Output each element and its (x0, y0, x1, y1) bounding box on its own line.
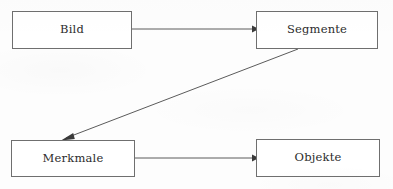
node-bild[interactable]: Bild (12, 11, 132, 49)
node-objekte[interactable]: Objekte (256, 139, 380, 177)
node-objekte-label: Objekte (295, 152, 342, 164)
edge-merkmale-to-objekte (135, 154, 259, 161)
diagram-canvas: Bild Segmente Merkmale Objekte (0, 0, 393, 189)
edge-segmente-to-merkmale (61, 49, 298, 140)
edge-line (66, 49, 298, 138)
node-merkmale-label: Merkmale (43, 153, 104, 165)
edge-bild-to-segmente (132, 25, 259, 32)
node-segmente-label: Segmente (287, 24, 347, 36)
node-bild-label: Bild (60, 24, 84, 36)
node-merkmale[interactable]: Merkmale (11, 140, 135, 177)
node-segmente[interactable]: Segmente (256, 11, 378, 49)
